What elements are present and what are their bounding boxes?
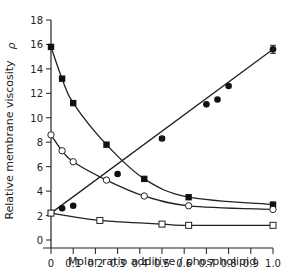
open-circle-marker [48, 132, 54, 138]
y-tick-label: 14 [30, 64, 43, 75]
viscosity-chart: 02468101214161800.10.20.30.40.50.60.70.8… [0, 0, 289, 272]
y-tick-label: 18 [30, 15, 43, 26]
chart-canvas: 02468101214161800.10.20.30.40.50.60.70.8… [0, 0, 289, 272]
open-circle-marker [70, 159, 76, 165]
open-circles-curve [51, 135, 273, 210]
filled-circle-marker [114, 171, 121, 178]
open-circle-marker [270, 206, 276, 212]
open-square-marker [159, 221, 165, 227]
y-tick-label: 16 [30, 39, 43, 50]
y-tick-label: 4 [37, 186, 43, 197]
filled-square-marker [103, 141, 109, 147]
filled-squares-curve [51, 47, 273, 205]
filled-circle-marker [70, 202, 77, 209]
open-circle-marker [59, 148, 65, 154]
x-tick-label: 0 [48, 258, 54, 269]
filled-circle-marker [214, 96, 221, 103]
filled-square-marker [141, 176, 147, 182]
filled-circle-marker [59, 205, 66, 212]
open-square-marker [97, 217, 103, 223]
y-tick-label: 8 [37, 137, 43, 148]
open-circle-marker [185, 203, 191, 209]
open-square-marker [48, 210, 54, 216]
axes: 02468101214161800.10.20.30.40.50.60.70.8… [30, 15, 281, 269]
y-tick-label: 6 [37, 162, 43, 173]
y-tick-label: 12 [30, 88, 43, 99]
y-tick-label: 10 [30, 113, 43, 124]
y-tick-label: 0 [37, 235, 43, 246]
filled-square-marker [59, 75, 65, 81]
filled-square-marker [70, 100, 76, 106]
filled-square-marker [48, 44, 54, 50]
filled-circle-marker [203, 101, 210, 108]
open-circle-marker [141, 193, 147, 199]
open-square-marker [270, 222, 276, 228]
open-circle-marker [103, 177, 109, 183]
filled-circle-marker [225, 83, 232, 90]
x-axis-label: Molar ratio additive / phospholipid [68, 255, 256, 268]
y-axis-symbol: ρ [5, 42, 18, 49]
open-square-marker [186, 222, 192, 228]
filled-square-marker [185, 194, 191, 200]
x-tick-label: 1.0 [265, 258, 281, 269]
y-tick-label: 2 [37, 211, 43, 222]
y-axis-label: Relative membrane viscosity [3, 60, 16, 220]
